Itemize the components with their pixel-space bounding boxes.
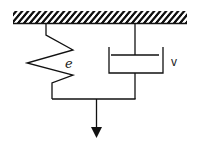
fixed-support [13, 11, 187, 24]
arrow-down-icon [91, 99, 102, 138]
diagram-canvas: e v [0, 0, 197, 148]
dashpot-label: v [171, 55, 177, 69]
spring-label: e [65, 56, 73, 71]
dashpot [109, 24, 163, 99]
kelvin-voigt-diagram [0, 0, 197, 148]
